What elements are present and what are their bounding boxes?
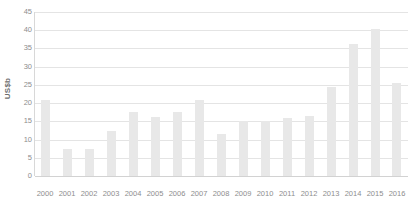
y-tick-label: 10 [24, 136, 32, 144]
bar-slot [101, 12, 123, 176]
x-tick-slot: 2014 [342, 182, 364, 196]
y-axis-title-label: US$b [4, 77, 13, 98]
y-tick-label: 20 [24, 99, 32, 107]
x-tick-label: 2000 [37, 189, 54, 198]
x-tick-label: 2015 [367, 189, 384, 198]
bar-slot [167, 12, 189, 176]
x-tick-slot: 2003 [100, 182, 122, 196]
bar-chart: US$b 454035302520151050 2000200120022003… [0, 0, 412, 201]
x-tick-label: 2002 [81, 189, 98, 198]
bar-slot [123, 12, 145, 176]
bar[interactable] [305, 116, 314, 176]
bar-slot [57, 12, 79, 176]
y-tick-label: 15 [24, 118, 32, 126]
bar-slot [211, 12, 233, 176]
x-tick-slot: 2010 [254, 182, 276, 196]
bar[interactable] [371, 29, 380, 176]
y-tick-label: 45 [24, 8, 32, 16]
bar[interactable] [239, 121, 248, 176]
bar-slot [342, 12, 364, 176]
x-tick-slot: 2007 [188, 182, 210, 196]
bar-slot [320, 12, 342, 176]
x-tick-slot: 2005 [144, 182, 166, 196]
x-tick-label: 2012 [301, 189, 318, 198]
bar[interactable] [173, 112, 182, 176]
x-tick-label: 2004 [125, 189, 142, 198]
bar-slot [35, 12, 57, 176]
x-tick-label: 2013 [323, 189, 340, 198]
bar[interactable] [85, 149, 94, 176]
bar-slot [254, 12, 276, 176]
x-tick-label: 2016 [389, 189, 406, 198]
bar-slot [386, 12, 408, 176]
bar[interactable] [129, 112, 138, 176]
axis-baseline [35, 176, 408, 177]
bar[interactable] [217, 134, 226, 176]
bar-series [35, 12, 408, 176]
x-tick-label: 2010 [257, 189, 274, 198]
x-tick-slot: 2000 [34, 182, 56, 196]
x-tick-slot: 2015 [364, 182, 386, 196]
y-axis-tick-labels: 454035302520151050 [14, 12, 32, 176]
plot-area [34, 12, 408, 176]
x-axis-tick-labels: 2000200120022003200420052006200720082009… [34, 182, 408, 196]
x-tick-label: 2006 [169, 189, 186, 198]
bar[interactable] [283, 118, 292, 176]
y-tick-label: 35 [24, 45, 32, 53]
x-tick-label: 2008 [213, 189, 230, 198]
x-tick-slot: 2001 [56, 182, 78, 196]
x-tick-slot: 2011 [276, 182, 298, 196]
x-tick-slot: 2004 [122, 182, 144, 196]
bar-slot [145, 12, 167, 176]
y-tick-label: 25 [24, 81, 32, 89]
bar[interactable] [195, 100, 204, 176]
x-tick-label: 2014 [345, 189, 362, 198]
x-tick-slot: 2006 [166, 182, 188, 196]
bar-slot [364, 12, 386, 176]
bar-slot [79, 12, 101, 176]
x-tick-label: 2005 [147, 189, 164, 198]
bar[interactable] [261, 121, 270, 176]
x-tick-slot: 2013 [320, 182, 342, 196]
x-tick-slot: 2002 [78, 182, 100, 196]
bar-slot [189, 12, 211, 176]
x-tick-label: 2011 [279, 189, 295, 198]
x-tick-slot: 2008 [210, 182, 232, 196]
x-tick-label: 2009 [235, 189, 252, 198]
y-tick-label: 0 [28, 172, 32, 180]
y-tick-label: 5 [28, 154, 32, 162]
x-tick-slot: 2012 [298, 182, 320, 196]
y-tick-label: 40 [24, 26, 32, 34]
x-tick-slot: 2016 [386, 182, 408, 196]
bar[interactable] [107, 131, 116, 176]
x-tick-label: 2001 [59, 189, 76, 198]
bar[interactable] [151, 117, 160, 176]
bar-slot [232, 12, 254, 176]
x-tick-label: 2007 [191, 189, 208, 198]
y-tick-label: 30 [24, 63, 32, 71]
bar[interactable] [349, 44, 358, 176]
bar-slot [276, 12, 298, 176]
bar[interactable] [327, 87, 336, 176]
x-tick-slot: 2009 [232, 182, 254, 196]
bar[interactable] [41, 100, 50, 176]
x-tick-label: 2003 [103, 189, 120, 198]
bar[interactable] [392, 83, 401, 176]
bar[interactable] [63, 149, 72, 176]
bar-slot [298, 12, 320, 176]
